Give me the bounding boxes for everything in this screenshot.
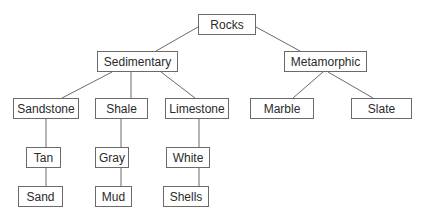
node-shale: Shale [95,98,148,119]
node-metamorphic: Metamorphic [284,51,367,72]
node-rocks: Rocks [198,14,256,35]
node-tan: Tan [26,147,61,168]
edge-sedimentary-sandstone [62,72,112,98]
edge-metamorphic-slate [328,72,373,98]
node-sedimentary: Sedimentary [97,51,178,72]
node-label: Mud [102,190,125,204]
node-label: Shells [170,190,203,204]
node-slate: Slate [351,98,412,119]
node-label: Rocks [210,18,243,32]
node-label: Limestone [169,102,224,116]
edge-rocks-sedimentary [156,27,198,51]
node-gray: Gray [95,147,129,168]
node-label: Sand [26,190,54,204]
node-white: White [166,147,210,168]
rock-classification-tree: RocksSedimentaryMetamorphicSandstoneShal… [0,0,424,220]
node-label: White [173,151,204,165]
node-label: Metamorphic [291,55,360,69]
edge-sedimentary-limestone [161,72,195,98]
node-marble: Marble [250,98,314,119]
node-limestone: Limestone [165,98,229,119]
node-label: Tan [34,151,53,165]
node-label: Shale [106,102,137,116]
node-mud: Mud [95,186,132,207]
edge-metamorphic-marble [293,72,323,98]
node-label: Sandstone [17,102,74,116]
node-shells: Shells [163,186,209,207]
node-sand: Sand [18,186,63,207]
node-label: Sedimentary [104,55,171,69]
node-sandstone: Sandstone [13,98,79,119]
node-label: Marble [264,102,301,116]
node-label: Slate [368,102,395,116]
node-label: Gray [99,151,125,165]
edge-rocks-metamorphic [256,27,300,51]
